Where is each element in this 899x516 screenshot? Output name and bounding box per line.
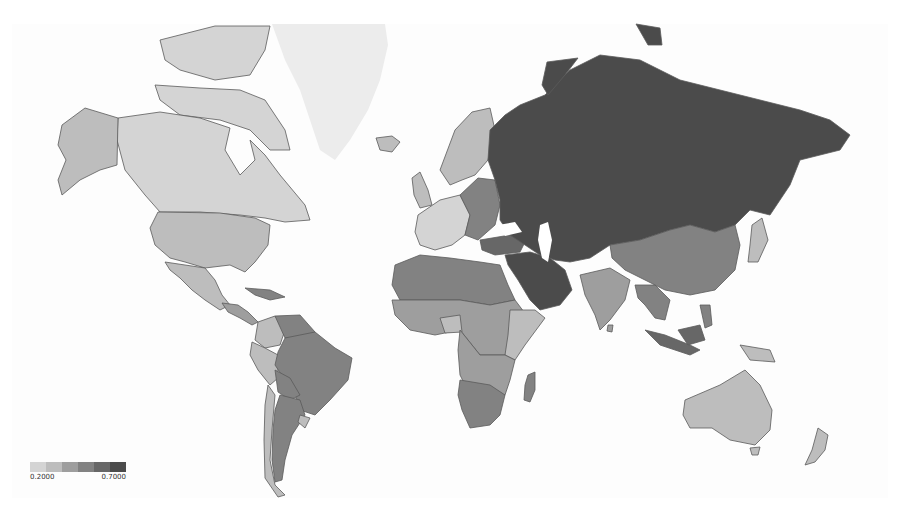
legend-gradient-bar — [30, 462, 126, 472]
region-madagascar[interactable] — [524, 372, 535, 402]
region-canada-islands[interactable] — [160, 26, 270, 80]
region-svalbard[interactable] — [636, 24, 662, 45]
region-mexico[interactable] — [165, 262, 230, 310]
region-india[interactable] — [580, 268, 630, 330]
region-north-africa[interactable] — [392, 255, 515, 305]
legend-step-5 — [94, 462, 110, 472]
region-greenland[interactable] — [272, 24, 388, 160]
region-peru[interactable] — [250, 342, 278, 385]
legend-step-2 — [46, 462, 62, 472]
region-australia[interactable] — [683, 370, 772, 445]
region-central-america[interactable] — [222, 303, 258, 325]
legend-step-3 — [62, 462, 78, 472]
region-philippines[interactable] — [700, 305, 712, 328]
region-scandinavia[interactable] — [440, 108, 495, 185]
region-sri-lanka[interactable] — [607, 325, 613, 332]
region-papua[interactable] — [740, 345, 775, 362]
region-caribbean[interactable] — [245, 288, 285, 300]
region-uk[interactable] — [412, 172, 432, 208]
color-legend: 0.2000 0.7000 — [30, 462, 126, 481]
legend-min-label: 0.2000 — [30, 473, 55, 481]
legend-step-6 — [110, 462, 126, 472]
legend-step-4 — [78, 462, 94, 472]
region-argentina[interactable] — [272, 395, 305, 482]
region-uruguay[interactable] — [298, 415, 310, 428]
legend-step-1 — [30, 462, 46, 472]
world-choropleth-map[interactable] — [0, 0, 899, 516]
region-new-zealand[interactable] — [805, 428, 828, 465]
region-east-africa[interactable] — [505, 310, 545, 360]
region-japan[interactable] — [748, 218, 768, 262]
region-iceland[interactable] — [376, 136, 400, 152]
legend-max-label: 0.7000 — [102, 473, 127, 481]
region-alaska[interactable] — [58, 108, 118, 195]
region-tasmania[interactable] — [750, 447, 760, 455]
